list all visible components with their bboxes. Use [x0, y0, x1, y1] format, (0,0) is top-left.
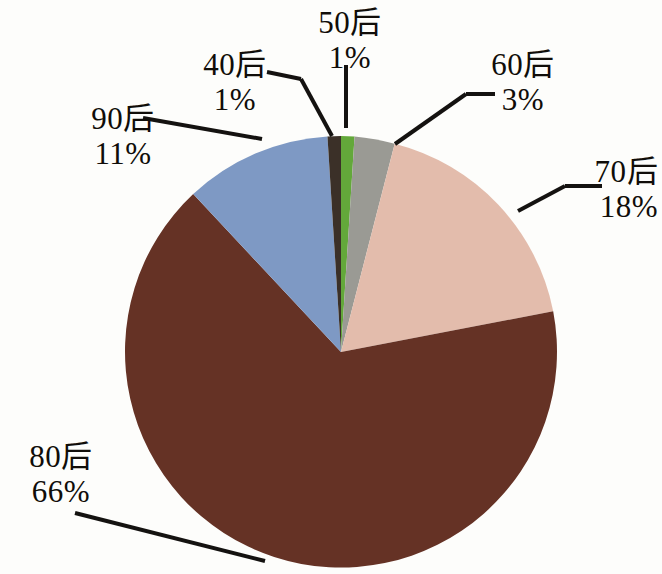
- pie-label-50hou: 50后 1%: [290, 6, 410, 75]
- pie-label-90hou: 90后 11%: [58, 102, 188, 171]
- leader-line-70hou: [518, 186, 565, 211]
- leader-line-60hou: [395, 94, 466, 144]
- pie-label-90hou-category: 90后: [58, 102, 188, 137]
- pie-label-70hou-category: 70后: [580, 155, 658, 190]
- pie-label-40hou-category: 40后: [175, 48, 295, 83]
- pie-label-80hou: 80后 66%: [2, 440, 120, 509]
- pie-label-70hou-percent: 18%: [580, 190, 658, 225]
- pie-label-60hou-percent: 3%: [468, 83, 578, 118]
- pie-label-50hou-percent: 1%: [290, 41, 410, 76]
- pie-label-40hou-percent: 1%: [175, 83, 295, 118]
- pie-label-90hou-percent: 11%: [58, 137, 188, 172]
- pie-label-60hou: 60后 3%: [468, 48, 578, 117]
- leader-line-40hou: [301, 79, 332, 136]
- pie-label-60hou-category: 60后: [468, 48, 578, 83]
- pie-chart-figure: 50后 1% 40后 1% 90后 11% 60后 3% 70后 18% 80后…: [0, 0, 662, 574]
- pie-label-50hou-category: 50后: [290, 6, 410, 41]
- pie-label-40hou: 40后 1%: [175, 48, 295, 117]
- pie-label-80hou-category: 80后: [2, 440, 120, 475]
- pie-label-80hou-percent: 66%: [2, 475, 120, 510]
- pie-label-70hou: 70后 18%: [580, 155, 658, 224]
